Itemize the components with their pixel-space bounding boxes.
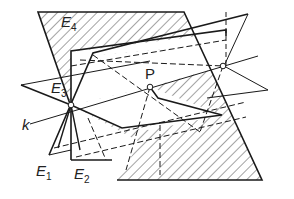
label-e2-base: E <box>74 165 84 182</box>
label-p: P <box>145 66 155 81</box>
label-e4-base: E <box>61 13 71 30</box>
label-e1-base: E <box>36 162 46 179</box>
label-e3-base: E <box>51 79 61 96</box>
label-e1-sub: 1 <box>46 171 52 182</box>
point-e3-intersection <box>68 102 74 108</box>
label-e1: E1 <box>36 163 52 182</box>
label-e3: E3 <box>51 80 67 99</box>
label-e2: E2 <box>74 166 90 185</box>
label-e4-sub: 4 <box>71 22 77 33</box>
point-p <box>147 84 153 90</box>
point-right-intersection <box>220 63 226 69</box>
label-e4: E4 <box>61 14 77 33</box>
label-k: k <box>22 117 30 132</box>
label-e2-sub: 2 <box>84 174 90 185</box>
label-e3-sub: 3 <box>61 88 67 99</box>
